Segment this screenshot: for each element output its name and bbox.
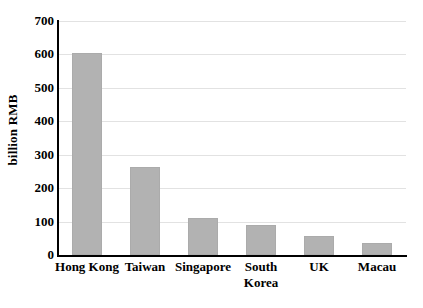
bar-slot bbox=[174, 21, 232, 255]
y-tick-label: 0 bbox=[20, 247, 54, 263]
plot-area bbox=[58, 21, 406, 255]
y-tick-label: 400 bbox=[20, 113, 54, 129]
y-axis-tick-labels: 0100200300400500600700 bbox=[16, 0, 54, 308]
y-tick-label: 200 bbox=[20, 180, 54, 196]
bar[interactable] bbox=[130, 167, 160, 255]
y-axis-line bbox=[57, 20, 59, 256]
bar-slot bbox=[348, 21, 406, 255]
y-tick-label: 500 bbox=[20, 80, 54, 96]
y-tick-label: 300 bbox=[20, 147, 54, 163]
bar-chart: billion RMB 0100200300400500600700 Hong … bbox=[0, 0, 423, 308]
bar-slot bbox=[58, 21, 116, 255]
bar[interactable] bbox=[246, 225, 276, 255]
x-tick-label: Macau bbox=[340, 259, 414, 275]
x-axis-tick-labels: Hong KongTaiwanSingaporeSouth KoreaUKMac… bbox=[58, 259, 406, 307]
bar[interactable] bbox=[304, 236, 334, 255]
bar-slot bbox=[232, 21, 290, 255]
y-tick-label: 600 bbox=[20, 46, 54, 62]
bar-slot bbox=[116, 21, 174, 255]
y-tick-label: 100 bbox=[20, 214, 54, 230]
bar-slot bbox=[290, 21, 348, 255]
bar[interactable] bbox=[72, 53, 102, 255]
x-axis-line bbox=[57, 255, 407, 257]
bar[interactable] bbox=[362, 243, 392, 255]
bar[interactable] bbox=[188, 218, 218, 255]
y-tick-label: 700 bbox=[20, 13, 54, 29]
